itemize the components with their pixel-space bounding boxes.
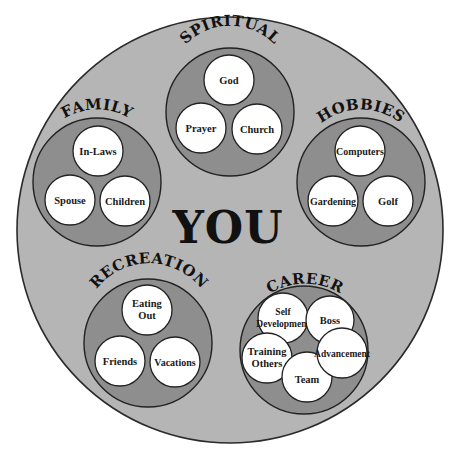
item-label-golf: Golf [378, 196, 398, 207]
item-label-spouse: Spouse [54, 195, 86, 206]
item-label-eating-out-line1: Eating [132, 298, 163, 309]
item-label-eating-out-line2: Out [138, 310, 156, 321]
life-balance-diagram: YOU SPIRITUAL God Prayer Church FAMILY I… [0, 0, 458, 451]
item-label-in-laws: In-Laws [79, 146, 116, 157]
item-label-boss: Boss [320, 315, 340, 326]
item-label-team: Team [295, 374, 320, 385]
item-label-prayer: Prayer [186, 123, 217, 134]
item-label-church: Church [240, 124, 274, 135]
item-label-self-development-line1: Self [275, 307, 291, 317]
item-label-friends: Friends [103, 356, 137, 367]
item-label-vacations: Vacations [154, 357, 195, 368]
item-label-training-others-line1: Training [248, 346, 288, 357]
center-label: YOU [171, 202, 283, 253]
item-label-children: Children [105, 196, 145, 207]
item-label-gardening: Gardening [310, 196, 356, 207]
item-label-advancement: Advancement [314, 349, 371, 359]
item-label-god: God [219, 75, 238, 86]
item-label-computers: Computers [336, 146, 384, 157]
item-label-self-development-line2: Development [256, 319, 310, 329]
item-label-training-others-line2: Others [252, 358, 283, 369]
